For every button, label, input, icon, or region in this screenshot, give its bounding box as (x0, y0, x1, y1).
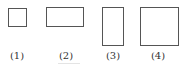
shape-4-large-rectangle (140, 7, 179, 46)
shape-1-label: (1) (2, 51, 32, 61)
faint-caption-mark (58, 63, 80, 64)
shape-2-label: (2) (51, 51, 81, 61)
shape-1-square (8, 8, 27, 27)
shape-4-label: (4) (143, 51, 173, 61)
shape-3-tall-rectangle (102, 7, 124, 46)
shape-2-wide-rectangle (46, 7, 84, 27)
shape-3-label: (3) (98, 51, 128, 61)
